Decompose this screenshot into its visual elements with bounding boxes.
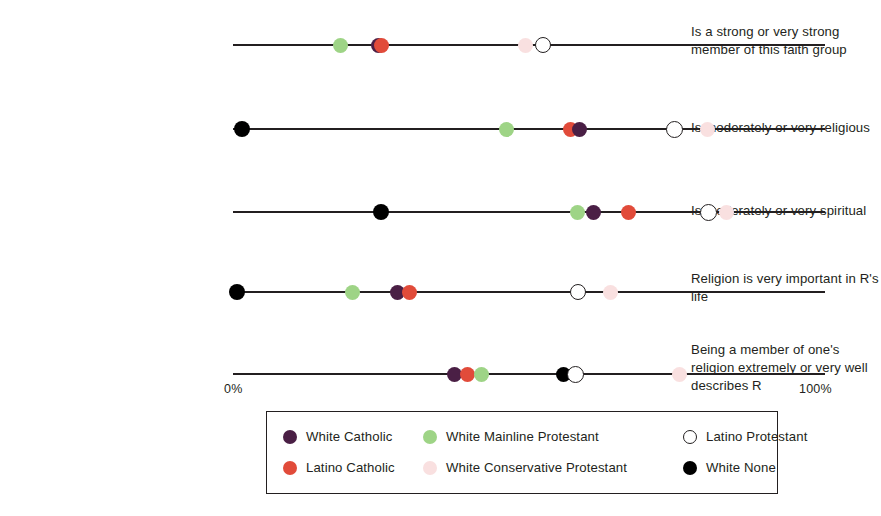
legend-label: White Catholic: [306, 429, 392, 444]
data-point-white-none[interactable]: [373, 204, 389, 220]
data-point-white-conservative-protestant[interactable]: [672, 367, 687, 382]
data-point-white-mainline-protestant[interactable]: [474, 367, 489, 382]
data-point-white-mainline-protestant[interactable]: [333, 38, 348, 53]
row-axis-line: [233, 291, 825, 293]
row-label-text: Religion is very important in R's life: [691, 270, 881, 306]
legend-swatch-icon: [683, 430, 697, 444]
legend-swatch-icon: [683, 461, 697, 475]
legend-item-white-mainline-protestant[interactable]: White Mainline Protestant: [423, 429, 683, 444]
legend-label: White Conservative Protestant: [446, 460, 627, 475]
legend-swatch-icon: [423, 461, 437, 475]
data-point-latino-protestant[interactable]: [666, 121, 683, 138]
data-point-white-mainline-protestant[interactable]: [570, 205, 585, 220]
legend-item-white-none[interactable]: White None: [683, 460, 807, 475]
legend-swatch-icon: [283, 430, 297, 444]
data-point-latino-protestant[interactable]: [535, 37, 551, 53]
legend-swatch-icon: [423, 430, 437, 444]
data-point-white-none[interactable]: [234, 121, 250, 137]
row-label-text: Is a strong or very strong member of thi…: [691, 23, 881, 59]
data-point-white-mainline-protestant[interactable]: [499, 122, 514, 137]
data-point-latino-protestant[interactable]: [570, 284, 586, 300]
legend-item-latino-catholic[interactable]: Latino Catholic: [283, 460, 423, 475]
data-point-white-catholic[interactable]: [586, 205, 601, 220]
data-point-latino-catholic[interactable]: [621, 205, 636, 220]
data-point-white-conservative-protestant[interactable]: [700, 122, 715, 137]
legend-item-white-catholic[interactable]: White Catholic: [283, 429, 423, 444]
row-axis-line: [233, 373, 825, 375]
data-point-white-none[interactable]: [229, 284, 245, 300]
data-point-white-catholic[interactable]: [572, 122, 587, 137]
data-point-white-mainline-protestant[interactable]: [345, 285, 360, 300]
row-axis-line: [233, 128, 825, 130]
chart-legend: White Catholic White Mainline Protestant…: [266, 411, 778, 494]
axis-tick-left: 0%: [224, 382, 242, 396]
legend-item-latino-protestant[interactable]: Latino Protestant: [683, 429, 807, 444]
axis-tick-right: 100%: [799, 382, 832, 396]
legend-label: White Mainline Protestant: [446, 429, 599, 444]
legend-item-white-conservative-protestant[interactable]: White Conservative Protestant: [423, 460, 683, 475]
legend-swatch-icon: [283, 461, 297, 475]
data-point-white-conservative-protestant[interactable]: [719, 205, 734, 220]
data-point-latino-catholic[interactable]: [402, 285, 417, 300]
data-point-white-conservative-protestant[interactable]: [518, 38, 533, 53]
data-point-latino-catholic[interactable]: [460, 367, 475, 382]
legend-label: Latino Protestant: [706, 429, 807, 444]
row-label-text: Being a member of one's religion extreme…: [691, 341, 881, 394]
legend-label: White None: [706, 460, 776, 475]
row-axis-line: [233, 211, 825, 213]
data-point-latino-protestant[interactable]: [567, 366, 584, 383]
data-point-latino-catholic[interactable]: [374, 38, 389, 53]
data-point-white-conservative-protestant[interactable]: [603, 285, 618, 300]
data-point-latino-protestant[interactable]: [700, 204, 717, 221]
legend-label: Latino Catholic: [306, 460, 395, 475]
